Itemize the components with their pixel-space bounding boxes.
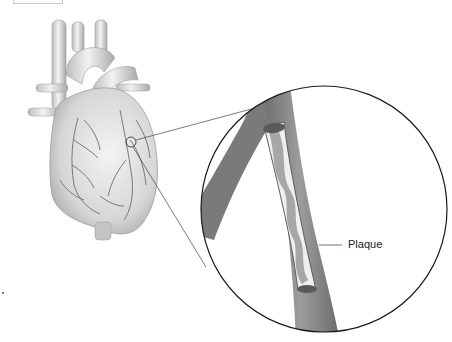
plaque-label: Plaque <box>348 238 382 250</box>
magnified-artery <box>180 86 340 342</box>
stray-mark <box>2 292 4 294</box>
heart-illustration <box>0 0 452 342</box>
